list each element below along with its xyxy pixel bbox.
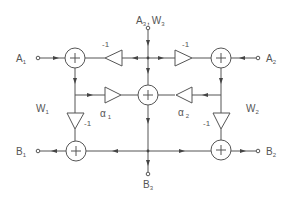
label-gain-vert-left: -1 — [84, 119, 92, 128]
label-alpha1: α1 — [100, 108, 112, 120]
label-b3: B3 — [143, 179, 154, 191]
label-gain-top-right: -1 — [182, 40, 190, 49]
arrow-icon — [132, 56, 138, 60]
port-a2-terminal — [256, 56, 260, 60]
arrow-icon — [179, 149, 185, 153]
port-b1-terminal — [36, 149, 40, 153]
arrow-icon — [146, 160, 150, 166]
arrow-icon — [146, 68, 150, 74]
arrow-icon — [53, 56, 59, 60]
arrow-icon — [158, 56, 164, 60]
adder-top-left — [65, 48, 85, 68]
gain-top-right — [175, 50, 192, 66]
adder-top-right — [211, 48, 231, 68]
arrow-icon — [240, 149, 246, 153]
label-b1: B1 — [16, 146, 27, 158]
label-a2: A2 — [266, 53, 277, 65]
arrow-icon — [112, 149, 118, 153]
arrow-icon — [146, 40, 150, 46]
adder-center — [138, 85, 158, 105]
junction-bottom — [147, 150, 150, 153]
arrow-icon — [239, 56, 245, 60]
port-b3-terminal — [146, 172, 150, 176]
gain-vert-left — [67, 113, 84, 129]
gain-top-left — [105, 50, 122, 66]
label-w1: W1 — [36, 103, 49, 115]
gain-vert-right — [213, 113, 230, 129]
label-alpha2: α2 — [178, 107, 190, 119]
label-w2: W2 — [246, 103, 259, 115]
arrow-icon — [146, 118, 150, 124]
port-b2-terminal — [256, 149, 260, 153]
port-a1-terminal — [36, 56, 40, 60]
junction-top — [147, 57, 150, 60]
adder-bottom-right — [211, 140, 231, 160]
arrow-icon — [202, 93, 208, 97]
label-gain-top-left: -1 — [102, 40, 110, 49]
label-gain-vert-right: -1 — [203, 119, 211, 128]
gain-alpha2 — [176, 87, 192, 103]
arrow-icon — [73, 78, 77, 84]
arrow-icon — [219, 78, 223, 84]
arrow-icon — [51, 149, 57, 153]
label-b2: B2 — [266, 146, 277, 158]
port-a3-terminal — [146, 26, 150, 30]
label-a3-w3: A3,W3 — [136, 15, 165, 27]
adder-bottom-left — [66, 141, 86, 161]
label-a1: A1 — [16, 53, 27, 65]
arrow-icon — [87, 93, 93, 97]
gain-alpha1 — [105, 87, 121, 103]
block-diagram: A1 A2 A3,W3 B1 B2 B3 W1 W2 -1 -1 -1 -1 α… — [0, 0, 295, 201]
